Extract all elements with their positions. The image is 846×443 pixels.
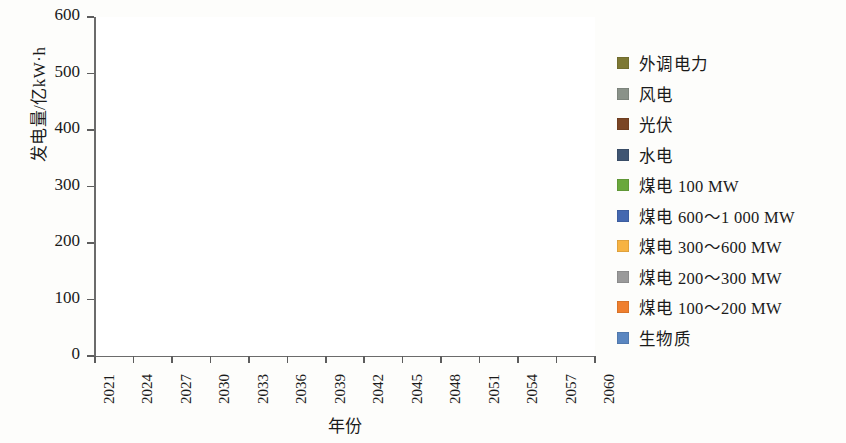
x-axis-tick: [133, 356, 135, 363]
legend-item[interactable]: 煤电 100～200 MW: [617, 292, 843, 323]
legend-swatch-icon: [617, 57, 629, 69]
x-axis-tick-label: 2042: [370, 374, 387, 404]
x-axis-tick: [210, 356, 212, 363]
legend-item[interactable]: 风电: [617, 79, 843, 110]
x-axis-tick-label: 2054: [524, 374, 541, 404]
legend-swatch-icon: [617, 271, 629, 283]
legend-item-label: 煤电 600～1 000 MW: [639, 204, 795, 228]
y-axis-tick: [87, 299, 94, 301]
y-axis-line: [94, 17, 96, 357]
legend-item-label: 风电: [639, 82, 674, 106]
legend-item-label: 水电: [639, 143, 674, 167]
stacked-area-plot: [95, 17, 595, 356]
legend-item[interactable]: 生物质: [617, 323, 843, 354]
y-axis-tick: [87, 242, 94, 244]
y-axis-tick: [87, 73, 94, 75]
x-axis-tick: [287, 356, 289, 363]
legend-item[interactable]: 煤电 300～600 MW: [617, 231, 843, 262]
x-axis-tick-label: 2030: [216, 374, 233, 404]
legend-item[interactable]: 煤电 100 MW: [617, 170, 843, 201]
x-axis-tick: [517, 356, 519, 363]
x-axis-tick: [556, 356, 558, 363]
x-axis-tick-label: 2051: [486, 374, 503, 404]
y-axis-title: 发电量/亿kW·h: [25, 10, 50, 200]
y-axis-tick-label: 300: [34, 176, 80, 193]
x-axis-tick-label: 2060: [601, 374, 618, 404]
plot-background: [95, 17, 595, 356]
x-axis-tick: [594, 356, 596, 363]
y-axis-tick: [87, 16, 94, 18]
legend-item-label: 生物质: [639, 326, 691, 350]
x-axis-tick: [402, 356, 404, 363]
legend-item-label: 煤电 300～600 MW: [639, 234, 782, 258]
y-axis-tick-label: 100: [34, 289, 80, 306]
legend-item[interactable]: 外调电力: [617, 48, 843, 79]
x-axis-tick-label: 2033: [255, 374, 272, 404]
legend-item[interactable]: 煤电 600～1 000 MW: [617, 201, 843, 232]
x-axis-tick-label: 2024: [139, 374, 156, 404]
legend-item[interactable]: 光伏: [617, 109, 843, 140]
y-axis-tick: [87, 129, 94, 131]
x-axis-tick: [363, 356, 365, 363]
x-axis-tick-label: 2039: [332, 374, 349, 404]
y-axis-tick-label: 200: [34, 232, 80, 249]
x-axis-tick-label: 2045: [409, 374, 426, 404]
x-axis-tick: [94, 356, 96, 363]
legend-item[interactable]: 煤电 200～300 MW: [617, 262, 843, 293]
chart-figure: 发电量/亿kW·h 年份 0100200300400500600 2021202…: [0, 0, 846, 443]
x-axis-tick-label: 2027: [178, 374, 195, 404]
legend-swatch-icon: [617, 179, 629, 191]
legend-item[interactable]: 水电: [617, 140, 843, 171]
x-axis-tick-label: 2021: [101, 374, 118, 404]
legend-swatch-icon: [617, 301, 629, 313]
legend-item-label: 外调电力: [639, 51, 708, 75]
x-axis-tick: [479, 356, 481, 363]
legend-item-label: 煤电 100～200 MW: [639, 295, 782, 319]
legend-item-label: 煤电 100 MW: [639, 173, 739, 197]
y-axis-tick: [87, 355, 94, 357]
x-axis-tick: [440, 356, 442, 363]
x-axis-tick: [325, 356, 327, 363]
legend-item-label: 煤电 200～300 MW: [639, 265, 782, 289]
x-axis-tick: [248, 356, 250, 363]
y-axis-tick: [87, 186, 94, 188]
x-axis-tick-label: 2057: [563, 374, 580, 404]
y-axis-tick-label: 500: [34, 63, 80, 80]
x-axis-line: [94, 356, 596, 358]
legend-swatch-icon: [617, 332, 629, 344]
chart-legend: 外调电力风电光伏水电煤电 100 MW煤电 600～1 000 MW煤电 300…: [617, 48, 843, 353]
y-axis-tick-label: 0: [34, 345, 80, 362]
x-axis-title: 年份: [90, 412, 600, 437]
y-axis-tick-label: 600: [34, 6, 80, 23]
legend-swatch-icon: [617, 88, 629, 100]
legend-swatch-icon: [617, 118, 629, 130]
x-axis-tick: [171, 356, 173, 363]
x-axis-tick-label: 2048: [447, 374, 464, 404]
y-axis-tick-label: 400: [34, 119, 80, 136]
legend-swatch-icon: [617, 210, 629, 222]
x-axis-tick-label: 2036: [293, 374, 310, 404]
legend-swatch-icon: [617, 149, 629, 161]
legend-item-label: 光伏: [639, 112, 674, 136]
legend-swatch-icon: [617, 240, 629, 252]
